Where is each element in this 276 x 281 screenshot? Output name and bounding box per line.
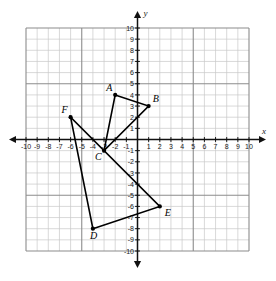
vertex-point-a <box>113 93 117 97</box>
y-tick-label-6: 6 <box>130 69 134 76</box>
vertex-point-c <box>102 149 106 153</box>
x-tick-label-9: 9 <box>236 143 240 150</box>
vertex-label-e: E <box>164 207 171 218</box>
x-tick-label--10: -10 <box>21 143 31 150</box>
y-tick-label-1: 1 <box>130 125 134 132</box>
x-tick-label--2: -2 <box>112 143 118 150</box>
y-tick-label--4: -4 <box>128 181 134 188</box>
x-tick-label-8: 8 <box>225 143 229 150</box>
y-axis-name: y <box>143 8 148 18</box>
x-axis-name: x <box>261 126 266 136</box>
y-tick-label--10: -10 <box>124 248 134 255</box>
x-tick-label--4: -4 <box>90 143 96 150</box>
x-tick-label-7: 7 <box>214 143 218 150</box>
y-tick-label--6: -6 <box>128 203 134 210</box>
y-tick-label-7: 7 <box>130 58 134 65</box>
x-tick-label-6: 6 <box>202 143 206 150</box>
y-tick-label--9: -9 <box>128 236 134 243</box>
x-tick-label-5: 5 <box>191 143 195 150</box>
y-tick-label-3: 3 <box>130 103 134 110</box>
y-tick-label-5: 5 <box>130 80 134 87</box>
vertex-label-b: B <box>153 93 159 104</box>
x-tick-label-2: 2 <box>158 143 162 150</box>
y-tick-label-10: 10 <box>126 25 134 32</box>
x-tick-label-1: 1 <box>147 143 151 150</box>
y-tick-label--5: -5 <box>128 192 134 199</box>
vertex-point-e <box>158 204 162 208</box>
x-tick-label--6: -6 <box>67 143 73 150</box>
coordinate-plane-svg: -10-9-8-7-6-5-4-3-2-11234567891010987654… <box>0 0 276 281</box>
vertex-label-c: C <box>95 151 102 162</box>
y-tick-label-9: 9 <box>130 36 134 43</box>
vertex-label-d: D <box>89 230 98 241</box>
x-tick-label--9: -9 <box>34 143 40 150</box>
x-tick-label-10: 10 <box>245 143 253 150</box>
x-tick-label--8: -8 <box>45 143 51 150</box>
x-tick-label--7: -7 <box>56 143 62 150</box>
y-tick-label-4: 4 <box>130 92 134 99</box>
x-tick-label--5: -5 <box>79 143 85 150</box>
x-tick-label-4: 4 <box>180 143 184 150</box>
vertex-label-a: A <box>105 82 113 93</box>
vertex-point-f <box>69 115 73 119</box>
vertex-label-f: F <box>61 104 69 115</box>
y-tick-label-8: 8 <box>130 47 134 54</box>
coordinate-plane-figure: -10-9-8-7-6-5-4-3-2-11234567891010987654… <box>0 0 276 281</box>
x-tick-label-3: 3 <box>169 143 173 150</box>
y-tick-label--1: -1 <box>128 147 134 154</box>
y-tick-label-2: 2 <box>130 114 134 121</box>
y-tick-label--2: -2 <box>128 158 134 165</box>
vertex-point-b <box>147 104 151 108</box>
y-tick-label--8: -8 <box>128 225 134 232</box>
